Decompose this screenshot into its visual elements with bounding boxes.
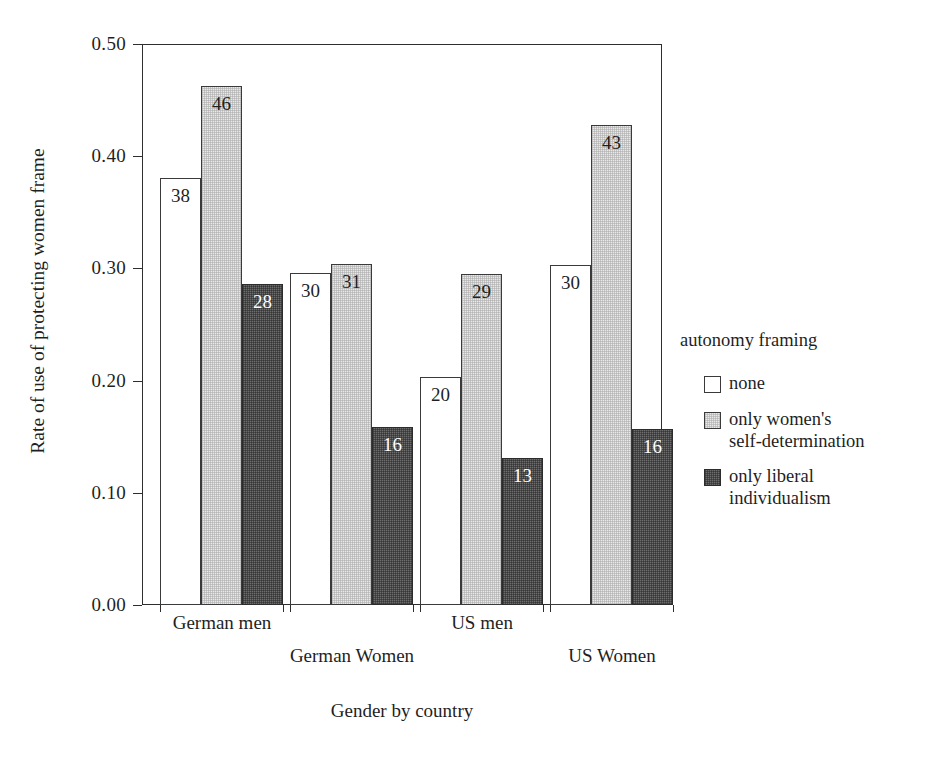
legend-item-none[interactable]: none xyxy=(704,373,920,395)
legend-item-only-womens-self-determination[interactable]: only women's self-determination xyxy=(704,409,920,453)
legend-swatch-only-liberal-individualism-icon xyxy=(704,469,721,486)
bar-chart-figure: 0.50 0.40 0.30 0.20 0.10 0.00 Rate of us… xyxy=(0,0,930,761)
x-category-label-us-women: US Women xyxy=(568,645,655,667)
legend-label-line1: only liberal xyxy=(729,466,814,486)
legend-label-only-womens-self-determination: only women's self-determination xyxy=(729,409,865,453)
legend-label-none: none xyxy=(729,373,765,395)
legend-label-only-liberal-individualism: only liberal individualism xyxy=(729,466,831,510)
x-category-label-german-women: German Women xyxy=(290,645,414,667)
legend-label-line2: self-determination xyxy=(729,431,865,453)
legend-item-only-liberal-individualism[interactable]: only liberal individualism xyxy=(704,466,920,510)
legend: autonomy framing none only women's self-… xyxy=(680,330,920,524)
x-category-label-us-men: US men xyxy=(451,612,513,634)
x-axis-title: Gender by country xyxy=(142,700,662,722)
x-category-label-german-men: German men xyxy=(173,612,272,634)
legend-swatch-none-icon xyxy=(704,376,721,393)
legend-swatch-only-womens-self-determination-icon xyxy=(704,412,721,429)
legend-title: autonomy framing xyxy=(680,330,920,351)
legend-label-line1: only women's xyxy=(729,409,832,429)
legend-label-line2: individualism xyxy=(729,488,831,510)
